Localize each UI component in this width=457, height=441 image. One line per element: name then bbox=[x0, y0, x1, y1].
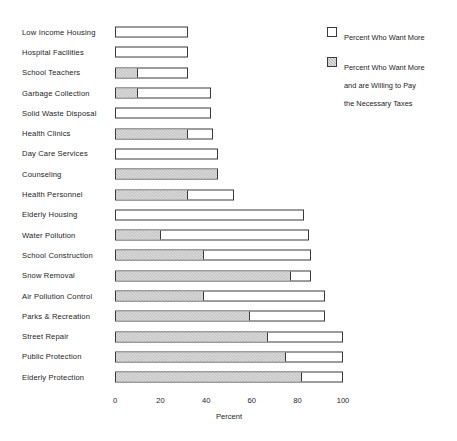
bar-area bbox=[115, 230, 309, 241]
category-label: Public Protection bbox=[0, 352, 106, 361]
bar-area bbox=[115, 67, 188, 78]
category-label: School Construction bbox=[0, 251, 106, 260]
bar-row: Water Pollution bbox=[0, 225, 457, 245]
bar-row: Public Protection bbox=[0, 347, 457, 367]
bar-total bbox=[115, 209, 304, 220]
bar-area bbox=[115, 189, 234, 200]
bar-area bbox=[115, 128, 213, 139]
bar-shaded-segment bbox=[116, 190, 188, 199]
bar-area bbox=[115, 250, 311, 261]
bar-total bbox=[115, 291, 325, 302]
bar-area bbox=[115, 88, 211, 99]
bar-total bbox=[115, 47, 188, 58]
bar-total bbox=[115, 88, 211, 99]
bar-shaded-segment bbox=[116, 170, 217, 179]
x-axis-tick-label: 20 bbox=[156, 396, 164, 405]
category-label: School Teachers bbox=[0, 68, 106, 77]
bar-total bbox=[115, 311, 325, 322]
chart-legend: Percent Who Want More Percent Who Want M… bbox=[327, 26, 455, 122]
bar-area bbox=[115, 270, 311, 281]
bar-row: Health Personnel bbox=[0, 184, 457, 204]
bar-total bbox=[115, 67, 188, 78]
bar-row: Health Clinics bbox=[0, 123, 457, 143]
bar-row: Elderly Housing bbox=[0, 205, 457, 225]
category-label: Street Repair bbox=[0, 332, 106, 341]
category-label: Water Pollution bbox=[0, 231, 106, 240]
bar-area bbox=[115, 331, 343, 342]
bar-total bbox=[115, 250, 311, 261]
legend-swatch-shaded bbox=[327, 57, 337, 67]
bar-total bbox=[115, 128, 213, 139]
bar-shaded-segment bbox=[116, 312, 250, 321]
bar-area bbox=[115, 351, 343, 362]
legend-swatch-open bbox=[327, 27, 337, 37]
category-label: Low Income Housing bbox=[0, 28, 106, 37]
category-label: Elderly Protection bbox=[0, 373, 106, 382]
bar-row: Snow Removal bbox=[0, 266, 457, 286]
bar-shaded-segment bbox=[116, 373, 302, 382]
bar-row: Elderly Protection bbox=[0, 367, 457, 387]
category-label: Snow Removal bbox=[0, 271, 106, 280]
bar-area bbox=[115, 209, 304, 220]
x-axis-tick-label: 100 bbox=[337, 396, 350, 405]
bar-row: Counseling bbox=[0, 164, 457, 184]
bar-total bbox=[115, 169, 218, 180]
bar-shaded-segment bbox=[116, 292, 204, 301]
legend-label-willing-to-pay: Percent Who Want More and are Willing to… bbox=[344, 63, 425, 108]
bar-row: Street Repair bbox=[0, 326, 457, 346]
bar-shaded-segment bbox=[116, 231, 161, 240]
legend-item-want-more: Percent Who Want More bbox=[327, 26, 455, 44]
bar-area bbox=[115, 291, 325, 302]
bar-total bbox=[115, 270, 311, 281]
bar-area bbox=[115, 169, 218, 180]
x-axis-tick-label: 40 bbox=[202, 396, 210, 405]
horizontal-bar-chart: Low Income HousingHospital FacilitiesSch… bbox=[0, 0, 457, 441]
bar-area bbox=[115, 311, 325, 322]
legend-label-want-more: Percent Who Want More bbox=[344, 33, 425, 42]
bar-shaded-segment bbox=[116, 89, 138, 98]
category-label: Day Care Services bbox=[0, 149, 106, 158]
category-label: Counseling bbox=[0, 170, 106, 179]
x-axis-tick-label: 0 bbox=[113, 396, 117, 405]
category-label: Solid Waste Disposal bbox=[0, 109, 106, 118]
bar-shaded-segment bbox=[116, 68, 138, 77]
x-axis-tick-label: 80 bbox=[293, 396, 301, 405]
bar-shaded-segment bbox=[116, 271, 291, 280]
bar-area bbox=[115, 148, 218, 159]
bar-total bbox=[115, 230, 309, 241]
bar-area bbox=[115, 108, 211, 119]
bar-shaded-segment bbox=[116, 129, 188, 138]
category-label: Health Personnel bbox=[0, 190, 106, 199]
bar-total bbox=[115, 108, 211, 119]
x-axis-title: Percent bbox=[115, 412, 343, 421]
bar-total bbox=[115, 189, 234, 200]
bar-total bbox=[115, 27, 188, 38]
bar-area bbox=[115, 27, 188, 38]
bar-shaded-segment bbox=[116, 352, 286, 361]
bar-total bbox=[115, 372, 343, 383]
bar-total bbox=[115, 331, 343, 342]
category-label: Health Clinics bbox=[0, 129, 106, 138]
x-axis-tick-label: 60 bbox=[248, 396, 256, 405]
bar-shaded-segment bbox=[116, 332, 268, 341]
bar-area bbox=[115, 47, 188, 58]
bar-total bbox=[115, 351, 343, 362]
bar-row: Air Pollution Control bbox=[0, 286, 457, 306]
bar-row: Day Care Services bbox=[0, 144, 457, 164]
category-label: Parks & Recreation bbox=[0, 312, 106, 321]
category-label: Air Pollution Control bbox=[0, 292, 106, 301]
bar-row: Parks & Recreation bbox=[0, 306, 457, 326]
bar-total bbox=[115, 148, 218, 159]
bar-area bbox=[115, 372, 343, 383]
x-axis: 020406080100 bbox=[0, 396, 457, 410]
bar-row: School Construction bbox=[0, 245, 457, 265]
legend-item-willing-to-pay: Percent Who Want More and are Willing to… bbox=[327, 56, 455, 110]
category-label: Garbage Collection bbox=[0, 89, 106, 98]
category-label: Hospital Facilities bbox=[0, 48, 106, 57]
bar-shaded-segment bbox=[116, 251, 204, 260]
category-label: Elderly Housing bbox=[0, 210, 106, 219]
